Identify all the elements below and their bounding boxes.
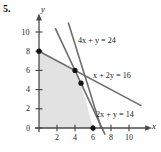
y-tick-label-2: 2 <box>22 104 34 113</box>
x-tick-label-8: 8 <box>104 133 118 142</box>
equation-label-2x-plus-y: 2x + y = 14 <box>96 110 134 119</box>
x-tick-label-6: 6 <box>86 133 100 142</box>
y-tick-label-8: 8 <box>22 47 34 56</box>
y-axis-label: y <box>41 4 45 14</box>
y-tick-label-4: 4 <box>22 85 34 94</box>
x-axis-label: x <box>152 121 156 131</box>
y-tick-label-10: 10 <box>17 28 34 37</box>
vertex-point <box>36 49 41 54</box>
x-axis-arrow-icon <box>145 125 152 131</box>
x-tick-label-4: 4 <box>68 133 82 142</box>
vertex-point <box>78 81 83 86</box>
equation-label-x-plus-2y: x + 2y = 16 <box>93 71 131 80</box>
figure-container: 5. <box>0 0 161 152</box>
equation-label-4x-plus-y: 4x + y = 24 <box>78 36 116 45</box>
vertex-point <box>90 125 95 130</box>
vertex-point <box>72 68 77 73</box>
x-tick-label-10: 10 <box>121 133 137 142</box>
x-tick-label-2: 2 <box>50 133 64 142</box>
y-tick-label-6: 6 <box>22 66 34 75</box>
y-tick-label-0: 0 <box>22 124 34 133</box>
y-axis-arrow-icon <box>36 14 42 21</box>
feasible-region-shading <box>39 51 93 128</box>
